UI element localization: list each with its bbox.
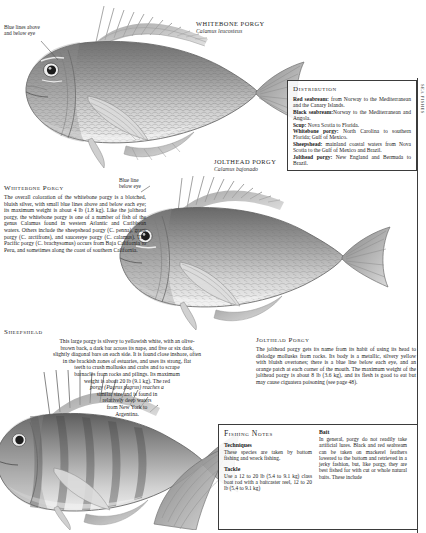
whitebone-paragraph: The overall coloration of the whitebone …	[4, 194, 146, 253]
jolthead-porgy-text-block: Jolthead Porgy The jolthead porgy gets i…	[256, 336, 416, 386]
jolthead-scientific-name: Calamus bajonado	[214, 166, 276, 172]
species-name: Jolthead porgy:	[293, 154, 332, 160]
species-name: Black seabream:	[293, 109, 333, 115]
sheepshead-paragraph: This large porgy is silvery to yellowish…	[4, 338, 250, 417]
side-tab-label: SEA FISHES	[420, 84, 425, 114]
distribution-entry: Jolthead porgy: New England and Bermuda …	[293, 154, 411, 167]
callout-blue-lines-above-below-eye: Blue lines above and below eye	[4, 24, 44, 37]
distribution-panel: Distribution Red seabream: from Norway t…	[287, 80, 417, 171]
sheepshead-line: similar size and is found in	[4, 391, 250, 398]
whitebone-porgy-text-block: Whitebone Porgy The overall coloration o…	[4, 184, 146, 253]
sheepshead-line: teeth to crush mollusks and crabs and to…	[4, 364, 250, 371]
species-name: Scup:	[293, 122, 306, 128]
plate-title-whitebone-porgy: WHITEBONE PORGY Calamus leucosteus	[196, 20, 265, 34]
distribution-entry: Black seabream:Norway to the Mediterrane…	[293, 109, 411, 122]
tackle-heading: Tackle	[224, 466, 312, 472]
sheepshead-line: barnacles from rocks and pilings. Its ma…	[4, 371, 250, 378]
plate-title-jolthead-porgy: JOLTHEAD PORGY Calamus bajonado	[214, 158, 276, 172]
distribution-entry: Red seabream: from Norway to the Mediter…	[293, 96, 411, 109]
species-name: Red seabream:	[293, 96, 329, 102]
callout-text: Blue lines above and below eye	[4, 24, 40, 36]
whitebone-scientific-name: Calamus leucosteus	[196, 28, 265, 34]
species-name: Whitebone porgy:	[293, 128, 339, 134]
bait-text: In general, porgy do not readily take ar…	[319, 436, 407, 480]
side-tab-sea-fishes: SEA FISHES	[417, 78, 426, 533]
fishing-notes-column-right: Bait In general, porgy do not readily ta…	[319, 429, 407, 495]
sheepshead-line: relatively deep waters	[4, 397, 250, 404]
species-range: Nova Scotia to Florida.	[306, 122, 359, 128]
jolthead-paragraph: The jolthead porgy gets its name from it…	[256, 346, 416, 386]
fishing-notes-heading: Fishing Notes	[224, 429, 312, 438]
sheepshead-line: porgy (Pagrus pagrus) reaches a	[4, 384, 250, 391]
jolthead-heading: Jolthead Porgy	[256, 336, 416, 344]
techniques-text: These species are taken by bottom fishin…	[224, 449, 312, 462]
jolthead-common-name: JOLTHEAD PORGY	[214, 158, 276, 165]
sheepshead-line: This large porgy is silvery to yellowish…	[4, 338, 250, 345]
jolthead-porgy-illustration	[118, 150, 418, 330]
fishing-notes-panel: Fishing Notes Techniques These species a…	[218, 424, 418, 530]
sheepshead-line: in the brackish zones of estuaries, and …	[4, 358, 250, 365]
tackle-text: Use a 12 to 20 lb (5.4 to 9.1 kg) class …	[224, 473, 312, 492]
whitebone-common-name: WHITEBONE PORGY	[196, 20, 265, 27]
whitebone-heading: Whitebone Porgy	[4, 184, 146, 192]
distribution-entry: Sheepshead: mainland coastal waters from…	[293, 141, 411, 154]
sheepshead-line: slightly diagonal bars on each side. It …	[4, 351, 250, 358]
distribution-heading: Distribution	[293, 85, 411, 93]
sheepshead-line: brown back, a dark bar across its nape, …	[4, 345, 250, 352]
sheepshead-line: weight is about 20 lb (9.1 kg). The red	[4, 378, 250, 385]
bait-heading: Bait	[319, 429, 407, 435]
distribution-entry: Whitebone porgy: North Carolina to south…	[293, 128, 411, 141]
sheepshead-heading: Sheepshead	[4, 328, 250, 336]
sheepshead-text-block: Sheepshead This large porgy is silvery t…	[4, 328, 250, 417]
techniques-heading: Techniques	[224, 442, 312, 448]
fishing-notes-column-left: Fishing Notes Techniques These species a…	[224, 429, 312, 495]
species-name: Sheepshead:	[293, 141, 322, 147]
sheepshead-line: from New York to	[4, 404, 250, 411]
sheepshead-line: Argentina.	[4, 411, 250, 418]
